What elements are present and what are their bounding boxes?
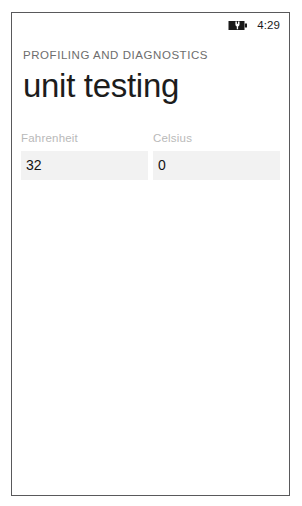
celsius-input[interactable]: 0 (153, 151, 280, 180)
content-area: Fahrenheit 32 Celsius 0 (12, 131, 289, 180)
celsius-field-group: Celsius 0 (153, 131, 280, 180)
empty-content-region (13, 198, 288, 494)
celsius-value: 0 (158, 157, 166, 174)
phone-device-frame: 4:29 PROFILING AND DIAGNOSTICS unit test… (11, 12, 290, 496)
fahrenheit-field-group: Fahrenheit 32 (21, 131, 148, 180)
status-bar: 4:29 (12, 13, 289, 37)
application-name: PROFILING AND DIAGNOSTICS (23, 48, 279, 62)
temperature-field-row: Fahrenheit 32 Celsius 0 (21, 131, 280, 180)
page-title: unit testing (23, 66, 279, 106)
page-header: PROFILING AND DIAGNOSTICS unit testing (23, 48, 279, 106)
fahrenheit-label: Fahrenheit (21, 131, 148, 146)
fahrenheit-value: 32 (26, 157, 42, 174)
celsius-label: Celsius (153, 131, 280, 146)
status-bar-clock: 4:29 (257, 19, 280, 31)
battery-charging-icon (228, 20, 248, 31)
fahrenheit-input[interactable]: 32 (21, 151, 148, 180)
